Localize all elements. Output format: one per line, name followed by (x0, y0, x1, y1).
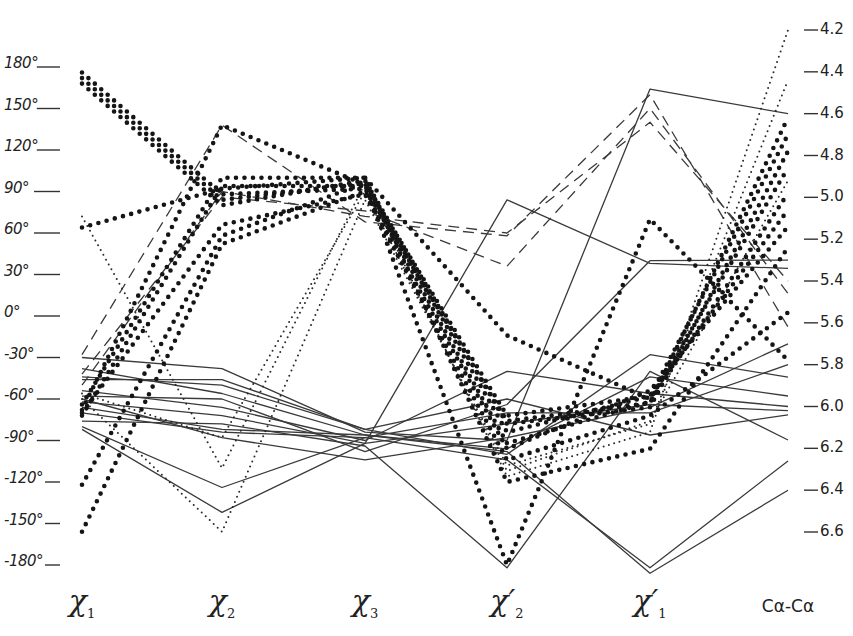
right-axis-tick-label: 4.4 (820, 62, 853, 80)
left-axis-tick-label: 30° (4, 262, 64, 280)
right-axis-tick-label: 5.0 (820, 187, 853, 205)
right-axis-tick-marks (804, 30, 818, 532)
x-axis-category-label: Cα-Cα (762, 596, 814, 616)
parallel-coordinates-chart (0, 0, 853, 636)
left-axis-tick-label: 60° (4, 220, 64, 238)
left-axis-tick-label: 120° (4, 137, 64, 155)
x-axis-category-label: χ1 (69, 583, 95, 621)
right-axis-tick-label: 4.2 (820, 20, 853, 38)
right-axis-tick-label: 5.8 (820, 355, 853, 373)
right-axis-tick-label: 4.8 (820, 146, 853, 164)
left-axis-tick-label: -120° (4, 469, 64, 487)
left-axis-tick-label: 180° (4, 54, 64, 72)
x-axis-category-label: χ′2 (490, 583, 523, 621)
x-axis-category-label: χ′1 (633, 583, 666, 621)
right-axis-tick-label: 6.6 (820, 522, 853, 540)
left-axis-tick-label: -180° (4, 552, 64, 570)
series-line-dotted-bold (82, 73, 788, 422)
left-axis-tick-label: 90° (4, 179, 64, 197)
series-line-dotted-bold (82, 168, 788, 399)
series-lines (82, 30, 788, 573)
series-line-dotted-bold (82, 78, 788, 416)
left-axis-tick-label: -90° (4, 428, 64, 446)
right-axis-tick-label: 5.2 (820, 229, 853, 247)
series-line-solid (82, 407, 788, 573)
right-axis-tick-label: 4.6 (820, 104, 853, 122)
left-axis-tick-label: 0° (4, 303, 64, 321)
right-axis-tick-label: 6.4 (820, 480, 853, 498)
series-line-solid (82, 402, 788, 444)
left-axis-tick-label: -60° (4, 386, 64, 404)
left-axis-tick-label: -150° (4, 511, 64, 529)
left-axis-tick-label: -30° (4, 345, 64, 363)
left-axis-tick-label: 150° (4, 96, 64, 114)
right-axis-tick-label: 5.4 (820, 271, 853, 289)
x-axis-category-label: χ3 (352, 583, 378, 621)
right-axis-tick-label: 5.6 (820, 313, 853, 331)
series-line-dotted-bold (82, 194, 788, 460)
right-axis-tick-label: 6.2 (820, 438, 853, 456)
right-axis-tick-label: 6.0 (820, 397, 853, 415)
x-axis-category-label: χ2 (209, 583, 235, 621)
